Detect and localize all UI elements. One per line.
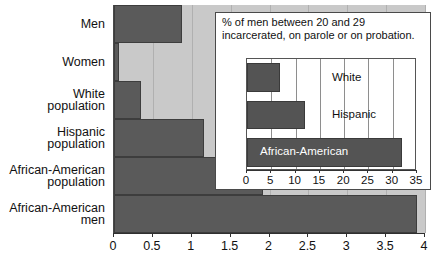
category-label: Women: [62, 56, 105, 69]
bar: [114, 195, 417, 233]
category-label: White population: [47, 88, 105, 113]
inset-x-tick: [416, 170, 417, 173]
x-tick-label: 3.5: [376, 240, 393, 253]
x-tick-label: 0: [110, 240, 117, 253]
chart-figure: MenWomenWhite populationHispanic populat…: [0, 0, 431, 268]
bar: [114, 119, 204, 157]
inset-caption: % of men between 20 and 29 incarcerated,…: [222, 16, 426, 42]
inset-bar: [247, 63, 280, 91]
x-tick-label: 1.5: [221, 240, 238, 253]
inset-x-tick: [392, 170, 393, 173]
inset-bar: [247, 101, 305, 129]
x-tick: [113, 233, 114, 237]
x-tick: [424, 233, 425, 237]
inset-x-tick: [343, 170, 344, 173]
x-tick: [385, 233, 386, 237]
inset-x-axis-line: [246, 170, 416, 171]
category-label: African-American population: [9, 164, 105, 189]
inset-x-tick: [367, 170, 368, 173]
x-tick-label: 0.5: [143, 240, 160, 253]
inset-bar-label: Hispanic: [332, 108, 376, 120]
category-axis-labels: MenWomenWhite populationHispanic populat…: [0, 0, 110, 233]
bar: [114, 81, 141, 119]
inset-x-tick-label: 10: [288, 174, 301, 186]
x-tick: [191, 233, 192, 237]
inset-x-tick: [319, 170, 320, 173]
category-label: Men: [81, 18, 105, 31]
bar: [114, 5, 182, 43]
x-tick-label: 4: [421, 240, 428, 253]
x-tick: [269, 233, 270, 237]
x-tick: [307, 233, 308, 237]
x-tick-label: 2: [265, 240, 272, 253]
x-tick: [346, 233, 347, 237]
inset-x-tick: [295, 170, 296, 173]
inset-bar-label: African-American: [260, 145, 348, 157]
inset-x-tick-label: 25: [361, 174, 374, 186]
category-label: African-American men: [9, 202, 105, 227]
x-tick-label: 2.5: [299, 240, 316, 253]
inset-x-tick: [270, 170, 271, 173]
x-tick-label: 1: [187, 240, 194, 253]
inset-bar-label: White: [332, 71, 361, 83]
x-tick-label: 3: [343, 240, 350, 253]
inset-x-tick-label: 35: [410, 174, 423, 186]
x-tick: [230, 233, 231, 237]
x-tick: [152, 233, 153, 237]
inset-x-tick-label: 5: [267, 174, 273, 186]
bar: [114, 43, 119, 81]
inset-x-tick-label: 15: [312, 174, 325, 186]
inset-x-tick-label: 30: [385, 174, 398, 186]
inset-chart: % of men between 20 and 29 incarcerated,…: [215, 12, 431, 190]
category-label: Hispanic population: [47, 126, 105, 151]
inset-x-tick-label: 0: [243, 174, 249, 186]
inset-x-tick: [246, 170, 247, 173]
inset-x-tick-label: 20: [337, 174, 350, 186]
